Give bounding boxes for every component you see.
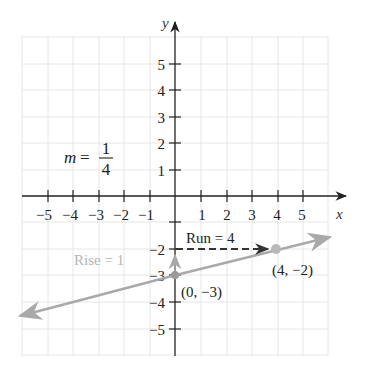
slope-label: m = 1 4 xyxy=(64,139,113,179)
svg-text:5: 5 xyxy=(298,207,306,223)
y-tick-labels: 5 4 3 2 1 −2 −3 −4 −5 xyxy=(149,57,165,338)
svg-text:1: 1 xyxy=(158,163,166,179)
run-label: Run = 4 xyxy=(186,230,235,246)
x-axis-label: x xyxy=(335,206,343,222)
axes xyxy=(22,22,346,356)
rise-label: Rise = 1 xyxy=(74,252,124,268)
svg-text:m: m xyxy=(64,148,76,167)
svg-text:−5: −5 xyxy=(149,322,165,338)
svg-text:4: 4 xyxy=(273,207,281,223)
svg-text:−4: −4 xyxy=(149,295,165,311)
svg-text:=: = xyxy=(80,148,90,167)
point-0-neg3 xyxy=(171,271,179,279)
svg-text:−4: −4 xyxy=(62,207,78,223)
svg-text:−1: −1 xyxy=(138,207,154,223)
svg-text:2: 2 xyxy=(223,207,231,223)
svg-text:−2: −2 xyxy=(149,242,165,258)
svg-text:3: 3 xyxy=(158,110,166,126)
slope-denominator: 4 xyxy=(102,160,111,179)
svg-text:3: 3 xyxy=(248,207,256,223)
point-4-neg2 xyxy=(271,244,281,254)
svg-text:1: 1 xyxy=(198,207,206,223)
svg-text:4: 4 xyxy=(158,83,166,99)
svg-text:−5: −5 xyxy=(36,207,52,223)
svg-text:5: 5 xyxy=(158,57,166,73)
point-label-4-neg2: (4, −2) xyxy=(272,262,313,279)
slope-diagram: x y −5 −4 −3 −2 −1 1 2 3 4 5 5 4 3 2 1 −… xyxy=(0,0,370,373)
svg-text:2: 2 xyxy=(158,136,166,152)
slope-numerator: 1 xyxy=(102,139,111,158)
y-axis-label: y xyxy=(160,15,169,31)
svg-text:−2: −2 xyxy=(113,207,129,223)
point-label-0-neg3: (0, −3) xyxy=(181,284,222,301)
svg-text:−3: −3 xyxy=(88,207,104,223)
x-tick-labels: −5 −4 −3 −2 −1 1 2 3 4 5 xyxy=(36,207,306,223)
